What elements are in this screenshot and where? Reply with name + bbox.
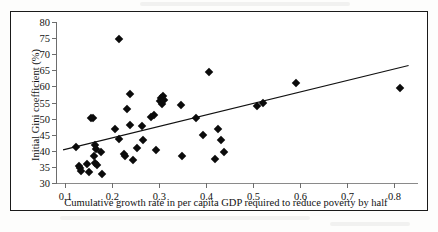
x-axis-title: Cumulative growth rate in per capita GDP… — [41, 197, 411, 208]
y-axis-tick-label: 45 — [30, 129, 50, 140]
trendline — [56, 20, 418, 184]
ghost-text-band — [60, 216, 310, 220]
y-axis-tick-label: 50 — [30, 113, 50, 124]
chart-figure-frame: Initial Gini coefficient (%) Cumulative … — [10, 11, 428, 211]
y-axis-tick-label: 80 — [30, 17, 50, 28]
y-axis-tick-label: 30 — [30, 178, 50, 189]
x-axis-tick-label: 0.1 — [59, 191, 72, 202]
ghost-text-band — [330, 222, 410, 226]
x-axis-tick-label: 0.3 — [153, 191, 166, 202]
y-axis-tick-label: 60 — [30, 81, 50, 92]
ghost-text-band — [140, 2, 350, 6]
x-axis-tick-label: 0.4 — [200, 191, 213, 202]
x-axis-tick-label: 0.6 — [294, 191, 307, 202]
y-axis-tick-label: 55 — [30, 97, 50, 108]
x-axis-tick-label: 0.8 — [388, 191, 401, 202]
plot-area: 3035404550556065707580 0.10.20.30.40.50.… — [56, 20, 418, 184]
x-axis-tick-label: 0.7 — [341, 191, 354, 202]
x-axis-tick-label: 0.5 — [247, 191, 260, 202]
y-axis-tick-label: 70 — [30, 49, 50, 60]
scanned-page-background: Initial Gini coefficient (%) Cumulative … — [0, 0, 438, 232]
y-axis-tick-label: 40 — [30, 145, 50, 156]
x-axis-tick-label: 0.2 — [106, 191, 119, 202]
y-axis-tick-label: 65 — [30, 65, 50, 76]
y-axis-tick-label: 35 — [30, 161, 50, 172]
y-axis-tick-label: 75 — [30, 33, 50, 44]
